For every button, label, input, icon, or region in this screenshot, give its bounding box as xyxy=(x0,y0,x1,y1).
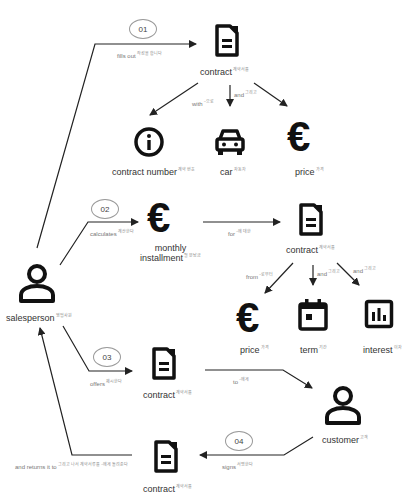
node-text: contract xyxy=(143,484,175,494)
step-badge-01: 01 xyxy=(129,19,157,39)
document-icon xyxy=(298,203,324,237)
edge-text: from xyxy=(246,274,258,280)
step-badge-03: 03 xyxy=(93,347,121,367)
node-text: contract xyxy=(200,67,232,77)
edge-label-from: from~로부터 xyxy=(246,271,273,280)
edge-label-signs: signs서명한다 xyxy=(222,461,253,470)
edge-label-and-3: and그리고 xyxy=(353,265,376,274)
node-label-price-1: price가격 xyxy=(295,167,324,177)
person-icon xyxy=(17,263,57,305)
node-label-monthly-installment: monthly installment월 분납금 xyxy=(140,243,201,264)
document-icon xyxy=(153,440,179,474)
edge-label-and-1: and그리고 xyxy=(234,89,257,98)
node-ko: 계약서를 xyxy=(176,390,192,395)
node-text: car xyxy=(220,167,233,177)
edge-ko: 그리고 xyxy=(245,90,257,95)
euro-icon: € xyxy=(147,197,170,239)
node-label-price-2: price가격 xyxy=(240,345,269,355)
node-label-contract-2: contract계약서를 xyxy=(286,245,335,255)
edge-ko: 그리고 xyxy=(364,266,376,271)
node-label-contract-4: contract계약서를 xyxy=(143,484,192,494)
node-ko: 영업사원 xyxy=(56,313,72,318)
edge-ko: 그리고 xyxy=(328,269,340,274)
node-label-salesperson: salesperson영업사원 xyxy=(6,313,72,323)
edge-ko: ~으로 xyxy=(204,99,214,104)
node-text: contract xyxy=(143,390,175,400)
node-ko: 고객 xyxy=(360,435,368,440)
euro-icon: € xyxy=(236,297,259,339)
document-icon xyxy=(214,24,240,58)
edge-ko: 그리고 나서 계약서류를 ~에게 돌려준다 xyxy=(58,462,129,467)
node-text: contract number xyxy=(112,167,177,177)
euro-icon: € xyxy=(287,116,310,158)
node-label-interest: interest이자 xyxy=(363,345,402,355)
node-text: interest xyxy=(363,345,393,355)
node-text: salesperson xyxy=(6,313,55,323)
edge-label-fills-out: fills out작성을 합니다 xyxy=(117,50,162,59)
node-text: term xyxy=(300,345,318,355)
edge-ko: ~에게 xyxy=(239,377,249,382)
node-ko: 계약서를 xyxy=(319,245,335,250)
node-ko: 계약서를 xyxy=(176,484,192,489)
edge-text: calculates xyxy=(90,231,117,237)
node-label-contract-3: contract계약서를 xyxy=(143,390,192,400)
step-badge-04: 04 xyxy=(225,431,253,451)
node-ko: 기간 xyxy=(319,345,327,350)
node-label-customer: customer고객 xyxy=(322,435,368,445)
edge-label-returns: and returns it to그리고 나서 계약서류를 ~에게 돌려준다 xyxy=(15,461,128,470)
node-ko: 이자 xyxy=(394,345,402,350)
node-text-line2: installment xyxy=(140,253,183,263)
edge-text: signs xyxy=(222,464,236,470)
edge-label-for: for~에 대한 xyxy=(228,228,251,237)
node-ko: 자동차 xyxy=(234,167,246,172)
edge-text: and xyxy=(234,92,244,98)
edge-ko: 제시한다 xyxy=(106,379,122,384)
edge-label-to: to~에게 xyxy=(233,376,249,385)
node-text: price xyxy=(295,167,315,177)
edge-ko: ~에 대한 xyxy=(236,229,251,234)
step-badge-02: 02 xyxy=(91,199,119,219)
edge-text: and xyxy=(353,268,363,274)
edge-label-calculates: calculates계산한다 xyxy=(90,228,134,237)
edge-ko: ~로부터 xyxy=(259,272,273,277)
calendar-icon xyxy=(297,298,329,332)
edge-label-offers: offers제시한다 xyxy=(90,378,122,387)
edge-label-and-2: and그리고 xyxy=(317,268,340,277)
node-label-contract-1: contract계약서를 xyxy=(200,67,249,77)
edge-text: and xyxy=(317,271,327,277)
edge-label-with: with~으로 xyxy=(192,98,214,107)
info-icon xyxy=(133,126,165,158)
node-text-line1: monthly xyxy=(140,243,201,253)
node-text: price xyxy=(240,345,260,355)
node-label-contract-number: contract number계약 번호 xyxy=(112,167,195,177)
edge-text: with xyxy=(192,101,203,107)
car-icon xyxy=(214,127,246,157)
edge-text: to xyxy=(233,379,238,385)
bar-chart-icon xyxy=(364,299,394,329)
node-label-car: car자동차 xyxy=(220,167,246,177)
edge-text: and returns it to xyxy=(15,464,57,470)
node-text: customer xyxy=(322,435,359,445)
node-text: contract xyxy=(286,245,318,255)
node-label-term: term기간 xyxy=(300,345,327,355)
edge-ko: 서명한다 xyxy=(237,462,253,467)
edge-ko: 작성을 합니다 xyxy=(137,51,162,56)
node-ko: 월 분납금 xyxy=(184,253,201,258)
edge-ko: 계산한다 xyxy=(118,229,134,234)
edge-text: offers xyxy=(90,381,105,387)
node-ko: 가격 xyxy=(261,345,269,350)
node-ko: 계약서를 xyxy=(233,67,249,72)
document-icon xyxy=(151,347,177,381)
person-icon xyxy=(323,385,363,427)
edge-text: fills out xyxy=(117,53,136,59)
edge-text: for xyxy=(228,231,235,237)
node-ko: 계약 번호 xyxy=(178,167,195,172)
node-ko: 가격 xyxy=(316,167,324,172)
